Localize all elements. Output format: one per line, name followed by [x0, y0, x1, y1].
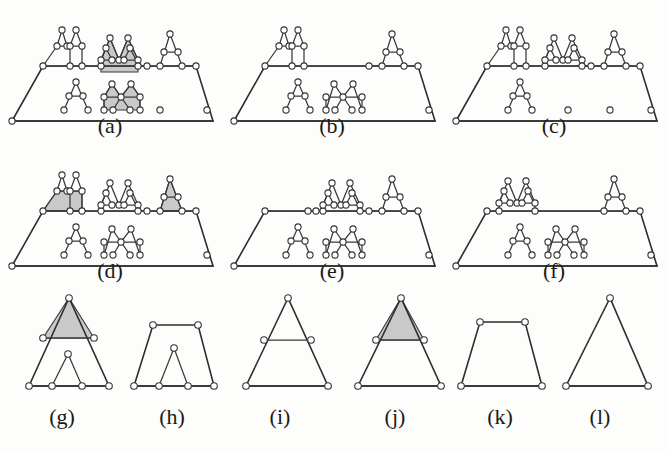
panel-label-e: (e) — [320, 258, 344, 284]
panel-label-c: (c) — [542, 113, 566, 139]
panel-f-graphic — [444, 145, 666, 270]
panel-label-f: (f) — [543, 258, 565, 284]
panel-label-l: (l) — [590, 404, 611, 430]
panel-h-graphic — [120, 290, 240, 400]
panel-e-graphic — [222, 145, 444, 270]
panel-label-d: (d) — [97, 258, 123, 284]
panel-label-g: (g) — [49, 404, 75, 430]
panel-label-b: (b) — [319, 113, 345, 139]
panel-label-k: (k) — [487, 404, 513, 430]
panel-label-i: (i) — [270, 404, 291, 430]
panel-j-graphic — [340, 290, 460, 400]
panel-label-a: (a) — [98, 113, 122, 139]
panel-c-graphic — [444, 0, 666, 125]
panel-i-graphic — [228, 290, 348, 400]
panel-l-graphic — [548, 290, 666, 400]
figure-canvas: (a) — [0, 0, 666, 453]
panel-g-graphic — [8, 290, 128, 400]
panel-label-j: (j) — [385, 404, 406, 430]
panel-a-graphic — [0, 0, 222, 125]
panel-b-graphic — [222, 0, 444, 125]
panel-label-h: (h) — [159, 404, 185, 430]
panel-d-graphic — [0, 145, 222, 270]
